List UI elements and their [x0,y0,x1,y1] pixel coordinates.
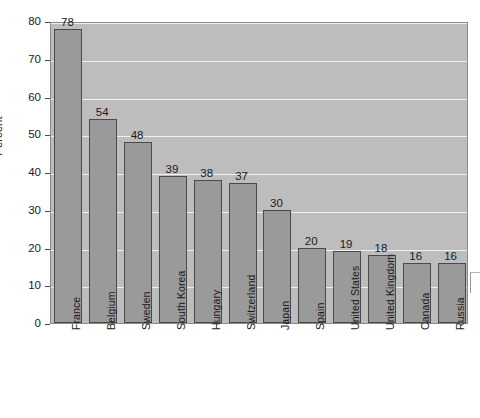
y-tick-label: 10 [11,280,41,291]
y-tick-mark [45,324,50,325]
y-tick-label: 70 [11,54,41,65]
category-label: Canada [420,293,431,330]
bar-value-label: 54 [82,106,122,118]
y-tick-label: 40 [11,167,41,178]
bar-value-label: 37 [222,170,262,182]
category-label: France [71,297,82,330]
category-label: Sweden [141,291,152,330]
category-label: Switzerland [246,275,257,330]
gridline [51,61,467,62]
bar-value-label: 16 [431,250,471,262]
category-label: United States [350,266,361,330]
category-label: Russia [455,297,466,330]
y-axis-title: Percent [0,116,4,155]
y-tick-label: 80 [11,16,41,27]
gridline [51,99,467,100]
category-label: Spain [315,303,326,330]
bar-value-label: 30 [256,197,296,209]
category-label: South Korea [176,271,187,330]
y-tick-label: 50 [11,129,41,140]
gridline [51,23,467,24]
y-tick-label: 20 [11,243,41,254]
bar-chart: Percent 01020304050607080 78544839383730… [0,0,480,418]
category-label: United Kingdom [385,254,396,330]
bar-value-label: 48 [117,129,157,141]
scan-edge-artifact [470,272,480,293]
y-tick-label: 0 [11,318,41,329]
bar [54,29,82,323]
y-tick-label: 60 [11,92,41,103]
y-tick-label: 30 [11,205,41,216]
category-label: Hungary [211,290,222,330]
category-label: Japan [280,301,291,330]
category-label: Belgium [106,291,117,330]
bar-value-label: 78 [47,16,87,28]
